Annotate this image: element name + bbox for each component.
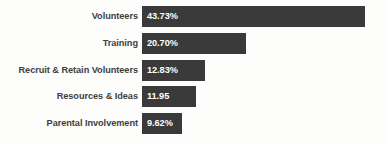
bar-container: 20.70% [142,33,246,54]
category-label: Recruit & Retain Volunteers [0,60,142,81]
chart-row: Recruit & Retain Volunteers 12.83% [0,60,388,81]
chart-row: Training 20.70% [0,33,388,54]
chart-row: Volunteers 43.73% [0,6,388,27]
bar-value-label: 43.73% [142,6,178,27]
bar-container: 9.62% [142,113,182,134]
bar-container: 11.95 [142,86,196,107]
bar-container: 12.83% [142,60,205,81]
bar-value-label: 11.95 [142,86,169,107]
chart-row: Resources & Ideas 11.95 [0,86,388,107]
horizontal-bar-chart: Volunteers 43.73% Training 20.70% Recrui… [0,0,388,144]
bar[interactable]: 9.62% [142,113,182,134]
bar[interactable]: 20.70% [142,33,246,54]
bar[interactable]: 43.73% [142,6,365,27]
category-label: Parental Involvement [0,113,142,134]
bar[interactable]: 12.83% [142,60,205,81]
category-label: Training [0,33,142,54]
bar-container: 43.73% [142,6,365,27]
chart-row: Parental Involvement 9.62% [0,113,388,134]
category-label: Resources & Ideas [0,86,142,107]
bar-value-label: 20.70% [142,33,178,54]
bar[interactable]: 11.95 [142,86,196,107]
bar-value-label: 9.62% [142,113,173,134]
bar-value-label: 12.83% [142,60,178,81]
category-label: Volunteers [0,6,142,27]
